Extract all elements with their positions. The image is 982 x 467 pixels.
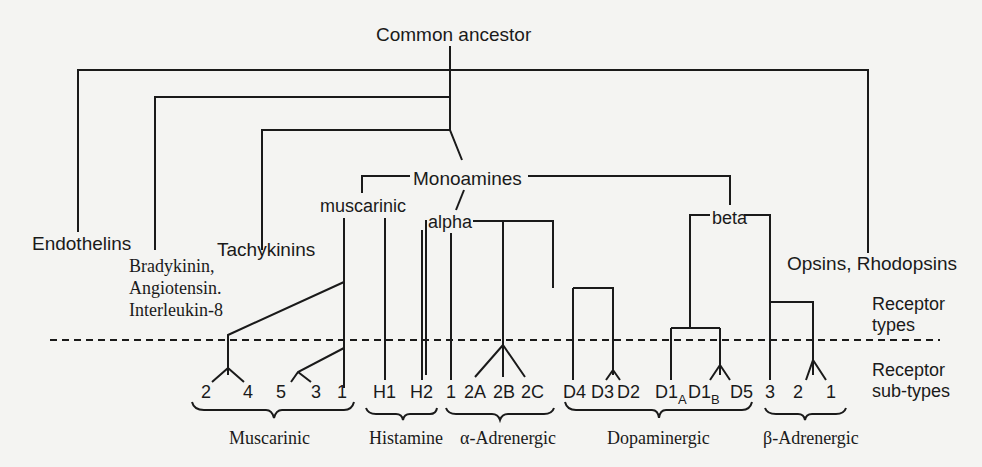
subtype-h2: H2 bbox=[410, 382, 433, 402]
bradykinin-label-3: Interleukin-8 bbox=[129, 300, 223, 320]
group-histamine: Histamine bbox=[369, 428, 443, 448]
bradykinin-label-1: Bradykinin, bbox=[129, 256, 215, 276]
brace-muscarinic bbox=[192, 402, 354, 418]
subtype-d4: D4 bbox=[563, 382, 586, 402]
subtype-b2: 2 bbox=[793, 382, 803, 402]
beta-lines bbox=[671, 215, 813, 375]
subtype-m2: 2 bbox=[201, 382, 211, 402]
brace-dopaminergic bbox=[565, 402, 752, 418]
subtype-m4: 4 bbox=[243, 382, 253, 402]
group-braces bbox=[192, 402, 846, 420]
brace-beta bbox=[765, 408, 846, 420]
bradykinin-label-2: Angiotensin. bbox=[129, 278, 222, 298]
subtype-d1a: D1 bbox=[655, 382, 678, 402]
brace-histamine bbox=[366, 408, 437, 420]
opsins-label: Opsins, Rhodopsins bbox=[787, 253, 957, 274]
monoamines-label: Monoamines bbox=[413, 168, 522, 189]
subtype-a2c: 2C bbox=[521, 382, 544, 402]
receptor-phylogeny-diagram: Common ancestor Monoamines muscarinic al… bbox=[0, 0, 982, 467]
subtype-d2: D2 bbox=[617, 382, 640, 402]
subtype-h1: H1 bbox=[373, 382, 396, 402]
muscarinic-type-label: muscarinic bbox=[320, 196, 406, 216]
subtype-d1b: D1 bbox=[688, 382, 711, 402]
common-ancestor-label: Common ancestor bbox=[376, 24, 532, 45]
subtype-d3: D3 bbox=[591, 382, 614, 402]
subtype-m1: 1 bbox=[337, 382, 347, 402]
subtype-a2a: 2A bbox=[464, 382, 486, 402]
endothelins-label: Endothelins bbox=[32, 233, 131, 254]
brace-alpha bbox=[446, 408, 554, 420]
group-dopaminergic: Dopaminergic bbox=[607, 428, 710, 448]
group-muscarinic: Muscarinic bbox=[229, 428, 310, 448]
subtype-d1a-sub: A bbox=[678, 392, 687, 407]
subtype-d5: D5 bbox=[730, 382, 753, 402]
subtype-m5: 5 bbox=[276, 382, 286, 402]
subtype-d1b-sub: B bbox=[711, 392, 720, 407]
subtype-labels: 2 4 5 3 1 H1 H2 1 2A 2B 2C D4 D3 D2 D1 A… bbox=[201, 382, 836, 407]
subtype-a1: 1 bbox=[446, 382, 456, 402]
group-alpha-adrenergic: α-Adrenergic bbox=[460, 428, 556, 448]
receptor-types-label-2: types bbox=[872, 315, 915, 335]
beta-label: beta bbox=[712, 208, 748, 228]
subtype-b3: 3 bbox=[765, 382, 775, 402]
alpha-lines bbox=[426, 220, 613, 375]
subtype-a2b: 2B bbox=[493, 382, 515, 402]
receptor-types-label-1: Receptor bbox=[872, 294, 945, 314]
receptor-subtypes-label-2: sub-types bbox=[872, 381, 950, 401]
subtype-m3: 3 bbox=[311, 382, 321, 402]
tachykinins-label: Tachykinins bbox=[217, 239, 315, 260]
subtype-lines bbox=[212, 340, 826, 388]
alpha-label: alpha bbox=[428, 212, 473, 232]
subtype-b1: 1 bbox=[826, 382, 836, 402]
group-beta-adrenergic: β-Adrenergic bbox=[763, 428, 859, 448]
receptor-subtypes-label-1: Receptor bbox=[872, 360, 945, 380]
